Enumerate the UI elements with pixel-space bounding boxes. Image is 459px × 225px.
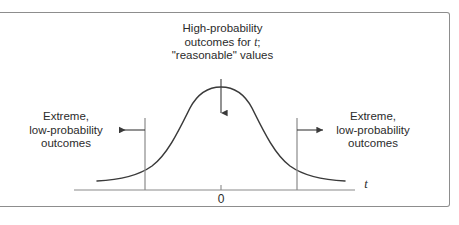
center-annotation-line-2-suffix: ; (257, 36, 260, 48)
center-annotation-text: High-probability outcomes for t; "reason… (140, 22, 305, 63)
zero-tick-label: 0 (208, 192, 234, 206)
right-annotation-line-3: outcomes (318, 137, 428, 151)
right-annotation-line-2: low-probability (318, 124, 428, 138)
left-annotation-line-2: low-probability (14, 124, 118, 138)
right-annotation-line-1: Extreme, (318, 110, 428, 124)
center-annotation-line-1: High-probability (140, 22, 305, 36)
right-tail-annotation-text: Extreme, low-probability outcomes (318, 110, 428, 151)
left-tail-annotation-text: Extreme, low-probability outcomes (14, 110, 118, 151)
center-annotation-line-3: "reasonable" values (140, 49, 305, 63)
center-annotation-line-2-prefix: outcomes for (184, 36, 254, 48)
t-distribution-figure: High-probability outcomes for t; "reason… (0, 0, 459, 225)
t-axis-label: t (359, 177, 373, 192)
left-annotation-line-1: Extreme, (14, 110, 118, 124)
left-annotation-line-3: outcomes (14, 137, 118, 151)
center-annotation-line-2: outcomes for t; (140, 36, 305, 50)
